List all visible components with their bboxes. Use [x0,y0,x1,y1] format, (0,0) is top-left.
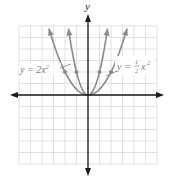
curve-arrow-icon [122,29,128,37]
plotted-point [98,70,102,74]
x-axis-right-arrow-icon [156,92,164,98]
parabola-graph: y y = 2x2 y = 1 2 x 2 [0,0,170,179]
right-eq-exponent: 2 [147,60,150,66]
axes [10,14,164,176]
right-frac-num: 1 [135,58,138,65]
curve-arrow-icon [48,29,54,37]
curve-arrow-icon [104,29,110,36]
y-axis-bottom-arrow-icon [85,168,91,176]
plotted-point [75,70,79,74]
right-eq-text: y = [116,61,131,72]
left-eq-text: y = 2x [19,64,46,75]
y-axis-top-arrow-icon [85,14,91,22]
left-eq-exponent: 2 [46,64,49,70]
svg-text:y = 2x2: y = 2x2 [19,64,49,75]
x-axis-left-arrow-icon [10,92,18,98]
plotted-point [63,70,67,74]
right-eq-var: x [140,61,146,72]
y-axis-label: y [84,0,90,12]
curve-arrow-icon [67,29,73,36]
